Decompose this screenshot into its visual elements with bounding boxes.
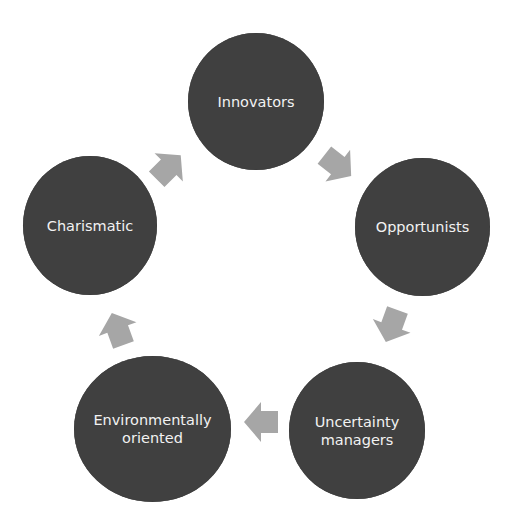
node-innovators: Innovators — [188, 33, 324, 170]
node-label: Environmentally — [93, 411, 211, 429]
node-label: Innovators — [217, 93, 294, 111]
node-label: Uncertainty — [315, 413, 400, 431]
node-label-line2: oriented — [93, 429, 211, 447]
arrow-innovators-to-opportunists-icon — [312, 139, 363, 191]
node-uncertainty-managers: Uncertainty managers — [289, 362, 425, 499]
node-environmentally-oriented: Environmentally oriented — [74, 356, 231, 502]
node-opportunists: Opportunists — [355, 158, 490, 296]
cycle-diagram: Innovators Opportunists Uncertainty mana… — [0, 0, 513, 524]
arrow-opportunists-to-uncertainty-icon — [367, 303, 416, 349]
node-charismatic: Charismatic — [23, 156, 157, 295]
arrow-environmental-to-charismatic-icon — [93, 306, 142, 352]
arrow-uncertainty-to-environmental-icon — [244, 402, 278, 442]
arrow-charismatic-to-innovators-icon — [143, 141, 195, 193]
node-label: Opportunists — [376, 218, 470, 236]
node-label-line2: managers — [315, 431, 400, 449]
node-label: Charismatic — [47, 217, 133, 235]
